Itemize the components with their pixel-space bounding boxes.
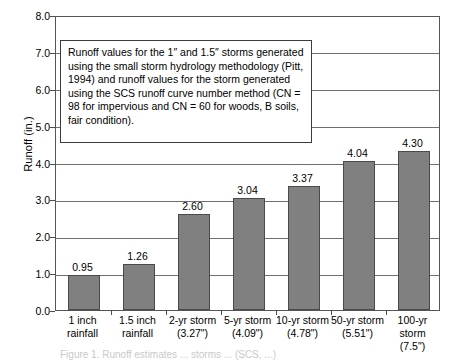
x-axis-tick-label-line: 100-yr storm	[385, 314, 440, 340]
x-axis-tick-label-line: 1 inch	[55, 314, 110, 327]
bar-value-label: 0.95	[58, 262, 108, 273]
y-axis-tick-mark	[50, 311, 55, 312]
x-axis-tick-label: 2-yr storm(3.27")	[165, 314, 220, 340]
x-axis-tick-label-line: rainfall	[55, 327, 110, 340]
x-axis-tick-label-line: 2-yr storm	[165, 314, 220, 327]
y-axis-tick-label: 3.0	[22, 195, 50, 205]
x-axis-tick-label-line: (5.51")	[330, 327, 385, 340]
y-axis-tick-mark	[50, 127, 55, 128]
y-axis-tick-label: 1.0	[22, 269, 50, 279]
x-axis-tick-label-line: 1.5 inch	[110, 314, 165, 327]
x-axis-tick-label-line: (4.09")	[220, 327, 275, 340]
bar[interactable]	[68, 275, 100, 310]
y-axis-tick-labels: 8.07.06.05.04.03.02.01.00.0	[18, 0, 50, 357]
x-axis-tick-label-line: rainfall	[110, 327, 165, 340]
bar[interactable]	[398, 151, 430, 310]
y-axis-tick-label: 5.0	[22, 122, 50, 132]
y-axis-tick-mark	[50, 200, 55, 201]
bar-value-label: 2.60	[168, 201, 218, 212]
bar[interactable]	[288, 186, 320, 310]
y-axis-tick-label: 6.0	[22, 85, 50, 95]
bar[interactable]	[123, 264, 155, 310]
bar[interactable]	[233, 198, 265, 310]
y-axis-tick-mark	[50, 16, 55, 17]
y-axis-tick-label: 2.0	[22, 232, 50, 242]
gridline	[56, 164, 439, 165]
y-axis-tick-mark	[50, 90, 55, 91]
bar-value-label: 1.26	[113, 251, 163, 262]
bar-value-label: 4.30	[388, 138, 438, 149]
x-axis-tick-label: 10-yr storm(4.78")	[275, 314, 330, 340]
x-axis-tick-label-line: (4.78")	[275, 327, 330, 340]
x-axis-tick-labels: 1 inchrainfall1.5 inchrainfall2-yr storm…	[55, 314, 440, 348]
bar[interactable]	[178, 214, 210, 310]
x-axis-tick-label: 100-yr storm(7.5")	[385, 314, 440, 353]
bar-value-label: 3.37	[278, 173, 328, 184]
x-axis-tick-label: 5-yr storm(4.09")	[220, 314, 275, 340]
bar-value-label: 4.04	[333, 148, 383, 159]
y-axis-tick-mark	[50, 164, 55, 165]
x-axis-tick-label-line: 50-yr storm	[330, 314, 385, 327]
annotation-textbox: Runoff values for the 1″ and 1.5″ storms…	[60, 40, 312, 143]
x-axis-tick-label: 50-yr storm(5.51")	[330, 314, 385, 340]
y-axis-tick-label: 0.0	[22, 306, 50, 316]
bar[interactable]	[343, 161, 375, 310]
figure-caption: Figure 1. Runoff estimates ... storms ..…	[60, 349, 456, 360]
x-axis-tick-label-line: (3.27")	[165, 327, 220, 340]
y-axis-tick-mark	[50, 274, 55, 275]
bar-value-label: 3.04	[223, 185, 273, 196]
x-axis-tick-label-line: 5-yr storm	[220, 314, 275, 327]
y-axis-tick-label: 8.0	[22, 11, 50, 21]
y-axis-tick-mark	[50, 237, 55, 238]
x-axis-tick-label: 1 inchrainfall	[55, 314, 110, 340]
y-axis-tick-label: 7.0	[22, 48, 50, 58]
y-axis-tick-mark	[50, 53, 55, 54]
y-axis-tick-label: 4.0	[22, 159, 50, 169]
x-axis-tick-label-line: 10-yr storm	[275, 314, 330, 327]
x-axis-tick-label: 1.5 inchrainfall	[110, 314, 165, 340]
